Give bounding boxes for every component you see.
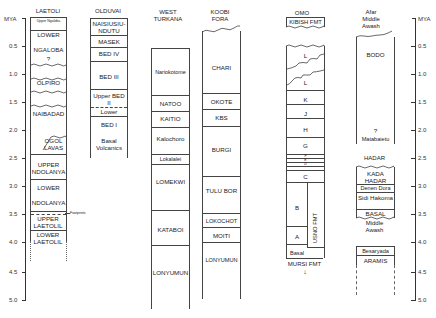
unit-okote: OKOTE — [203, 98, 240, 105]
koobi-fora-column: CHARI OKOTE KBS BURGI TULU BOR LOKOCHOT … — [202, 31, 241, 299]
tick-label: 2.5 — [9, 155, 17, 161]
tick — [22, 130, 26, 131]
unit-tulu-bor: TULU BOR — [203, 187, 240, 194]
omo-title: OMO — [292, 10, 312, 17]
unit-question: ? — [357, 127, 394, 134]
tick-label: 3.0 — [418, 183, 426, 189]
unit-d: D — [287, 162, 324, 166]
unit-besaryada: Besaryada — [357, 248, 394, 255]
unit-bed-iii: BED III — [91, 73, 127, 80]
unit-upper-laetolil: UPPER LAETOLIL — [33, 215, 63, 229]
tick-label: 1.5 — [418, 99, 426, 105]
middle-awash-title: Middle Awash — [356, 220, 393, 234]
tick — [412, 18, 416, 19]
unit-matabaietu: Matabaietu — [357, 136, 394, 143]
unit-olpiro: OLPIRO — [31, 79, 66, 86]
unit-g: G — [287, 142, 324, 149]
left-axis-unit: MYA — [4, 16, 17, 22]
tick-label: 2.5 — [418, 155, 426, 161]
hadar-title: HADAR — [356, 155, 393, 162]
tick — [22, 272, 26, 273]
unit-bed-i: BED I — [91, 121, 127, 128]
tick — [22, 102, 26, 103]
tick-label: 0.5 — [9, 43, 17, 49]
unit-lokalalei: Lokalalei — [152, 156, 189, 163]
laetoli-dotted-extension — [30, 241, 67, 261]
unit-lonyumun: LONYUMUN — [152, 269, 189, 276]
middle-awash-column: Besaryada ARAMIS — [356, 246, 395, 266]
kibish-bottom-wave — [286, 25, 325, 29]
unit-aramis: ARAMIS — [357, 257, 394, 264]
unit-bodo: BODO — [357, 51, 394, 58]
unit-naibadad: NAIBADAD — [31, 110, 66, 117]
tick — [411, 74, 415, 75]
unconformity-lines — [31, 18, 66, 242]
right-axis-line — [415, 18, 416, 301]
tick-label: 1.0 — [418, 71, 426, 77]
laetoli-title: LAETOLI — [30, 8, 66, 15]
tick — [411, 186, 415, 187]
unit-bed-iv: BED IV — [91, 50, 127, 57]
tick-label: 4.5 — [9, 269, 17, 275]
tick — [22, 186, 26, 187]
tick-label: 2.0 — [9, 127, 17, 133]
unit-l-lower: L — [287, 79, 324, 86]
unit-burgi: BURGI — [203, 146, 240, 153]
olduvai-column: NAISIUSIU-NDUTU MASEK BED IV BED III Upp… — [90, 18, 128, 158]
west-turkana-column: Nariokotome NATOO KAITIO Kalochoro Lokal… — [151, 48, 190, 309]
tick-label: 3.5 — [9, 211, 17, 217]
unit-basal-volcanics: Basal Volcanics — [91, 137, 127, 151]
unit-naisiusiu-ndutu: NAISIUSIU-NDUTU — [91, 20, 127, 34]
unit-basal: Basal — [287, 250, 307, 257]
tick-label: 3.0 — [9, 183, 17, 189]
right-axis-unit: MYA — [418, 16, 431, 22]
afar-title: Afar Middle Awash — [354, 9, 388, 30]
middle-awash-dashed-extension — [356, 265, 395, 295]
unit-sidi-hakoma: Sidi Hakoma — [357, 194, 394, 201]
mursi-fmt-label: MURSI FMT — [284, 261, 325, 267]
unit-lonyumun: LONYUMUN — [203, 257, 240, 264]
unit-masek: MASEK — [91, 38, 127, 45]
left-axis-line — [25, 18, 26, 301]
unit-lomekwi: LOMEKWI — [152, 178, 189, 185]
tick-label: 4.5 — [418, 269, 426, 275]
tick — [411, 272, 415, 273]
unit-ogol-lavas: OGOL LAVAS — [41, 137, 66, 151]
tick — [411, 46, 415, 47]
omo-column: L L K J H G F E D C B A Basal USNO FMT — [286, 46, 325, 258]
unit-kataboi: KATABOI — [152, 226, 189, 233]
tick-label: 0.5 — [418, 43, 426, 49]
unit-j: J — [287, 110, 324, 117]
unit-kalochoro: Kalochoro — [152, 135, 189, 142]
unit-kaitio: KAITIO — [152, 115, 189, 122]
tick — [22, 18, 26, 19]
unit-lower: Lower — [91, 108, 127, 115]
tick — [22, 74, 26, 75]
tick-label: 1.5 — [9, 99, 17, 105]
tick-label: 5.0 — [9, 297, 17, 303]
usno-fmt-label: USNO FMT — [311, 203, 319, 253]
unit-nariokotome: Nariokotome — [152, 69, 189, 76]
tick-label: 1.0 — [9, 71, 17, 77]
tick — [411, 102, 415, 103]
footprints-annotation: Footprints — [70, 211, 86, 215]
tick — [411, 158, 415, 159]
tick — [411, 300, 415, 301]
unit-kbs: KBS — [203, 114, 240, 121]
unit-moiti: MOITI — [203, 232, 240, 239]
tick — [22, 300, 26, 301]
unit-h: H — [287, 126, 324, 133]
west-turkana-title: WEST TURKANA — [148, 9, 188, 23]
tick — [411, 214, 415, 215]
afar-column: BODO ? Matabaietu — [356, 37, 395, 144]
tick-label: 4.0 — [418, 239, 426, 245]
tick-label: 2.0 — [418, 127, 426, 133]
unit-lokochot: LOKOCHOT — [203, 218, 240, 225]
unit-a: A — [287, 233, 307, 240]
hadar-column: KADA HADAR Denen Dora Sidi Hakoma BASAL — [356, 167, 395, 218]
unit-c: C — [287, 173, 324, 180]
tick-label: 3.5 — [418, 211, 426, 217]
unit-natoo: NATOO — [152, 100, 189, 107]
unit-ndolanya: NDOLANYA — [31, 199, 66, 206]
tick-label: 4.0 — [9, 239, 17, 245]
